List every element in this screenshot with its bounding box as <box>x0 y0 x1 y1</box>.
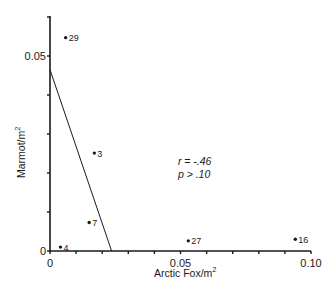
data-point: 29 <box>64 33 79 43</box>
regression-line <box>50 70 112 251</box>
stat-annotation: p > .10 <box>177 168 211 180</box>
y-tick-label: 0 <box>40 245 46 257</box>
regression-line-segment <box>50 70 112 251</box>
data-point: 7 <box>87 218 97 228</box>
point-label: 4 <box>63 243 68 253</box>
point-label: 16 <box>298 235 308 245</box>
data-point: 3 <box>93 149 103 159</box>
data-points: 293742716 <box>59 33 309 252</box>
y-axis: 00.05 <box>25 16 50 257</box>
point-marker <box>294 238 297 241</box>
x-axis-label: Arctic Fox/m2 <box>154 265 217 279</box>
point-label: 3 <box>97 149 102 159</box>
annotations: r = -.46p > .10 <box>177 155 212 180</box>
point-label: 7 <box>92 218 97 228</box>
point-label: 27 <box>191 236 201 246</box>
point-label: 29 <box>69 33 79 43</box>
point-marker <box>59 245 62 248</box>
y-tick-label: 0.05 <box>25 50 46 62</box>
data-point: 16 <box>294 235 309 245</box>
point-marker <box>87 221 90 224</box>
point-marker <box>93 151 96 154</box>
x-tick-label: 0 <box>47 257 53 269</box>
y-axis-label: Marmot/m2 <box>13 127 27 178</box>
point-marker <box>187 239 190 242</box>
point-marker <box>64 36 67 39</box>
data-point: 27 <box>187 236 202 246</box>
stat-annotation: r = -.46 <box>178 155 212 167</box>
scatter-chart: 00.05 00.050.10 293742716 r = -.46p > .1… <box>0 0 329 297</box>
x-tick-label: 0.10 <box>300 257 321 269</box>
